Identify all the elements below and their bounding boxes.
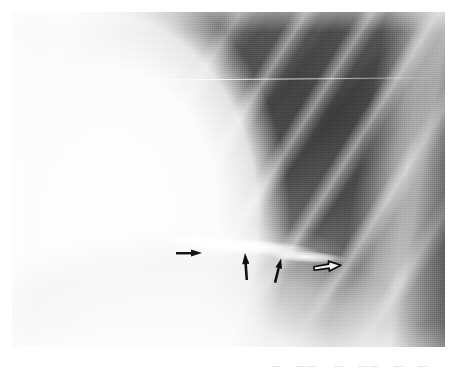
caption-fragment: —: [418, 361, 427, 370]
caption-fragment: —: [394, 361, 403, 370]
page-canvas: —— ——— ———: [0, 0, 461, 371]
caption-fragment: —: [334, 361, 343, 370]
chest-radiograph-image: [12, 12, 445, 347]
caption-fragment: — —: [296, 361, 316, 370]
caption-fragment: — —: [358, 361, 378, 370]
plate-edge-vignette: [12, 12, 445, 347]
caption-text-fragments: —— ——— ———: [0, 355, 461, 371]
caption-fragment: —: [272, 361, 281, 370]
